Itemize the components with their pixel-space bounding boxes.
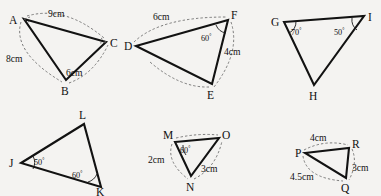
vertex-label-O: O — [222, 129, 230, 141]
angle-value-f: 60° — [201, 33, 211, 43]
triangle-abc-outline — [24, 19, 106, 80]
geometry-canvas: A C B 9cm 8cm 6cm D F E 6cm 4cm 60° G I … — [0, 0, 381, 196]
vertex-label-F: F — [231, 9, 237, 21]
vertex-label-P: P — [295, 147, 301, 159]
triangle-jkl: J L K 50° 60° — [9, 109, 105, 196]
side-length-ab: 8cm — [6, 53, 23, 64]
vertex-label-H: H — [309, 90, 317, 102]
angle-value-i: 50° — [334, 27, 344, 37]
vertex-label-R: R — [352, 138, 360, 150]
vertex-label-N: N — [186, 181, 195, 193]
vertex-label-J: J — [9, 157, 14, 169]
side-length-df: 6cm — [153, 11, 170, 22]
vertex-label-L: L — [79, 109, 86, 121]
side-length-fe: 4cm — [224, 46, 241, 57]
triangle-abc: A C B 9cm 8cm 6cm — [6, 8, 118, 97]
triangle-ghi: G I H 70° 50° — [271, 11, 372, 102]
vertex-label-K: K — [96, 186, 105, 196]
side-length-pr: 4cm — [310, 132, 327, 143]
vertex-label-Q: Q — [341, 182, 350, 194]
angle-value-g: 70° — [291, 27, 301, 37]
vertex-label-G: G — [271, 16, 279, 28]
vertex-label-M: M — [163, 129, 173, 141]
measure-arc-de — [150, 62, 209, 87]
angle-value-j: 50° — [34, 157, 44, 167]
angle-value-m: 60° — [180, 145, 190, 155]
triangle-def: D F E 6cm 4cm 60° — [124, 9, 241, 101]
side-length-pq: 4.5cm — [290, 171, 314, 182]
side-length-no: 3cm — [201, 163, 218, 174]
angle-value-k: 60° — [72, 170, 82, 180]
side-length-rq: 3cm — [352, 162, 369, 173]
vertex-label-I: I — [368, 11, 372, 23]
vertex-label-B: B — [61, 85, 69, 97]
measure-arc-mo — [176, 134, 218, 138]
vertex-label-C: C — [110, 37, 118, 49]
triangle-mno: M O N 2cm 3cm 60° — [148, 129, 230, 193]
triangle-def-outline — [136, 20, 228, 84]
vertex-label-A: A — [9, 14, 18, 26]
side-length-ac: 9cm — [48, 8, 65, 19]
triangle-ghi-outline — [284, 16, 364, 85]
measure-arc-ac — [27, 13, 104, 38]
side-length-bc: 6cm — [66, 67, 83, 78]
geometry-figure: A C B 9cm 8cm 6cm D F E 6cm 4cm 60° G I … — [0, 0, 381, 196]
measure-arc-df — [134, 17, 226, 42]
triangle-jkl-outline — [21, 124, 101, 187]
measure-arc-ab — [20, 22, 62, 82]
vertex-label-D: D — [124, 40, 132, 52]
vertex-label-E: E — [207, 89, 214, 101]
angle-arc-k — [88, 174, 97, 182]
side-length-mn: 2cm — [148, 154, 165, 165]
triangle-pqr: P R Q 4cm 3cm 4.5cm — [290, 132, 369, 194]
